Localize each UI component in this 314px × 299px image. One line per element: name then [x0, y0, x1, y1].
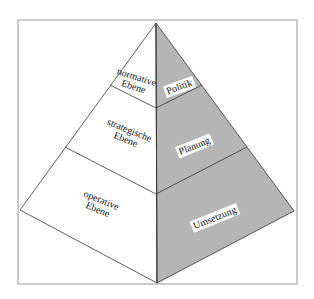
pyramid-diagram: normative Ebene strategische Ebene opera… — [0, 0, 314, 299]
left-face — [20, 23, 157, 283]
pyramid-graphic — [0, 0, 314, 299]
